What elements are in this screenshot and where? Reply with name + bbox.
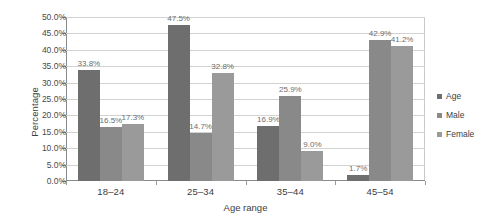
y-tick-label: 20.0% bbox=[6, 110, 66, 120]
y-tick-label: 15.0% bbox=[6, 127, 66, 137]
legend-label: Male bbox=[446, 110, 464, 120]
legend-label: Female bbox=[446, 129, 474, 139]
y-tick-label: 35.0% bbox=[6, 61, 66, 71]
x-tick-mark bbox=[156, 181, 157, 185]
bar-female-1[interactable] bbox=[212, 73, 234, 181]
plot-area: 33.8%16.5%17.3%47.5%14.7%32.8%16.9%25.9%… bbox=[66, 17, 425, 181]
y-tick-label: 5.0% bbox=[6, 160, 66, 170]
x-tick-mark bbox=[335, 181, 336, 185]
x-axis-title: Age range bbox=[0, 202, 495, 213]
x-tick-mark bbox=[246, 181, 247, 185]
x-tick-mark bbox=[425, 181, 426, 185]
bar-group bbox=[78, 17, 144, 181]
x-tick-label: 25–34 bbox=[187, 186, 214, 197]
bar-age-1[interactable] bbox=[168, 25, 190, 181]
x-axis-title-text: Age range bbox=[224, 202, 268, 213]
legend-swatch-icon bbox=[437, 113, 442, 118]
y-tick-label: 45.0% bbox=[6, 28, 66, 38]
legend-item-male[interactable]: Male bbox=[437, 107, 474, 123]
bar-age-2[interactable] bbox=[257, 126, 279, 181]
y-tick-label: 40.0% bbox=[6, 45, 66, 55]
bar-female-0[interactable] bbox=[122, 124, 144, 181]
chart-legend: AgeMaleFemale bbox=[437, 88, 474, 145]
y-tick-label: 25.0% bbox=[6, 94, 66, 104]
x-tick-label: 35–44 bbox=[277, 186, 304, 197]
bar-group bbox=[168, 17, 234, 181]
y-tick-label: 50.0% bbox=[6, 12, 66, 22]
bar-age-0[interactable] bbox=[78, 70, 100, 181]
x-tick-label: 45–54 bbox=[366, 186, 393, 197]
bar-chart: Percentage 33.8%16.5%17.3%47.5%14.7%32.8… bbox=[0, 0, 495, 224]
bar-male-3[interactable] bbox=[369, 40, 391, 181]
bar-group bbox=[347, 17, 413, 181]
bar-group bbox=[257, 17, 323, 181]
bar-age-3[interactable] bbox=[347, 175, 369, 181]
bar-male-1[interactable] bbox=[190, 133, 212, 181]
x-tick-label: 18–24 bbox=[97, 186, 124, 197]
bar-male-2[interactable] bbox=[279, 96, 301, 181]
legend-item-age[interactable]: Age bbox=[437, 88, 474, 104]
legend-swatch-icon bbox=[437, 94, 442, 99]
legend-swatch-icon bbox=[437, 132, 442, 137]
bar-male-0[interactable] bbox=[100, 127, 122, 181]
y-tick-label: 10.0% bbox=[6, 143, 66, 153]
y-tick-label: 0.0% bbox=[6, 176, 66, 186]
legend-item-female[interactable]: Female bbox=[437, 126, 474, 142]
bar-female-3[interactable] bbox=[391, 46, 413, 181]
x-tick-mark bbox=[66, 181, 67, 185]
y-tick-label: 30.0% bbox=[6, 78, 66, 88]
bar-female-2[interactable] bbox=[301, 151, 323, 181]
legend-label: Age bbox=[446, 91, 461, 101]
